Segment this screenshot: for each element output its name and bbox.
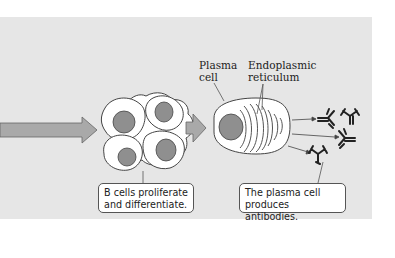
b-cells-callout: B cells proliferate and differentiate.: [98, 183, 194, 213]
antibody-icon: [339, 129, 355, 148]
antibody-icons: [309, 109, 359, 164]
endoplasmic-reticulum-label: Endoplasmic reticulum: [248, 59, 316, 83]
plasma-cell-callout: The plasma cell produces antibodies.: [239, 183, 346, 213]
antibody-icon: [309, 146, 327, 164]
plasma-cell-icon: [214, 98, 290, 154]
b-cell-cluster-icon: [101, 93, 193, 171]
antibody-icon: [341, 109, 359, 124]
antibody-icon: [318, 109, 334, 128]
plasma-cell-label: Plasma cell: [199, 59, 237, 83]
b-cell-diagram: [0, 0, 395, 258]
incoming-arrow-icon: [0, 117, 97, 143]
